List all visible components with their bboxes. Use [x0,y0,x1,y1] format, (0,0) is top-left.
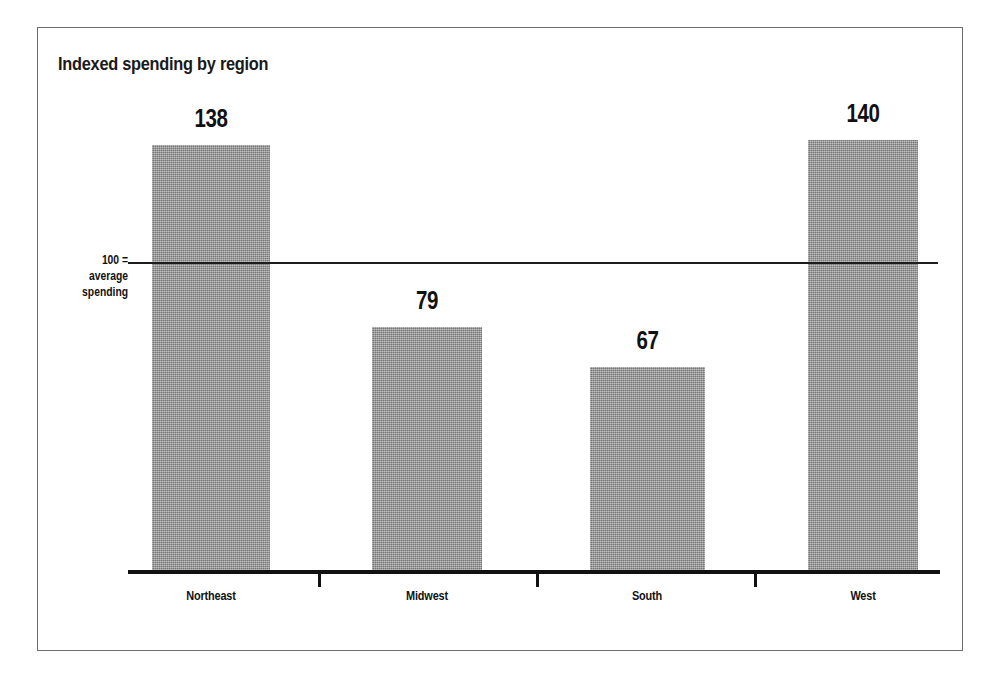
reference-label-line-1: 100 = [35,252,128,268]
bar-midwest[interactable] [372,327,482,572]
category-label-south: South [588,588,706,603]
reference-label-line-2: average [35,268,128,284]
reference-label-line-3: spending [35,284,128,300]
axis-tick-2 [536,574,539,587]
axis-tick-1 [318,574,321,587]
bar-south[interactable] [590,367,705,572]
x-axis-baseline [128,570,940,574]
bar-value-northeast: 138 [163,104,260,133]
bar-west[interactable] [808,140,918,572]
plot-area: 138 79 67 140 100 = average spending Nor… [0,0,990,678]
bar-northeast[interactable] [152,145,270,572]
reference-line-100 [128,262,938,264]
reference-line-label: 100 = average spending [35,252,128,300]
bar-value-south: 67 [600,326,694,355]
bar-value-west: 140 [818,99,908,128]
bar-value-midwest: 79 [382,286,472,315]
category-label-midwest: Midwest [368,588,486,603]
category-label-west: West [804,588,922,603]
axis-tick-3 [754,574,757,587]
chart-page: Indexed spending by region 138 79 67 140… [0,0,990,678]
category-label-northeast: Northeast [152,588,270,603]
